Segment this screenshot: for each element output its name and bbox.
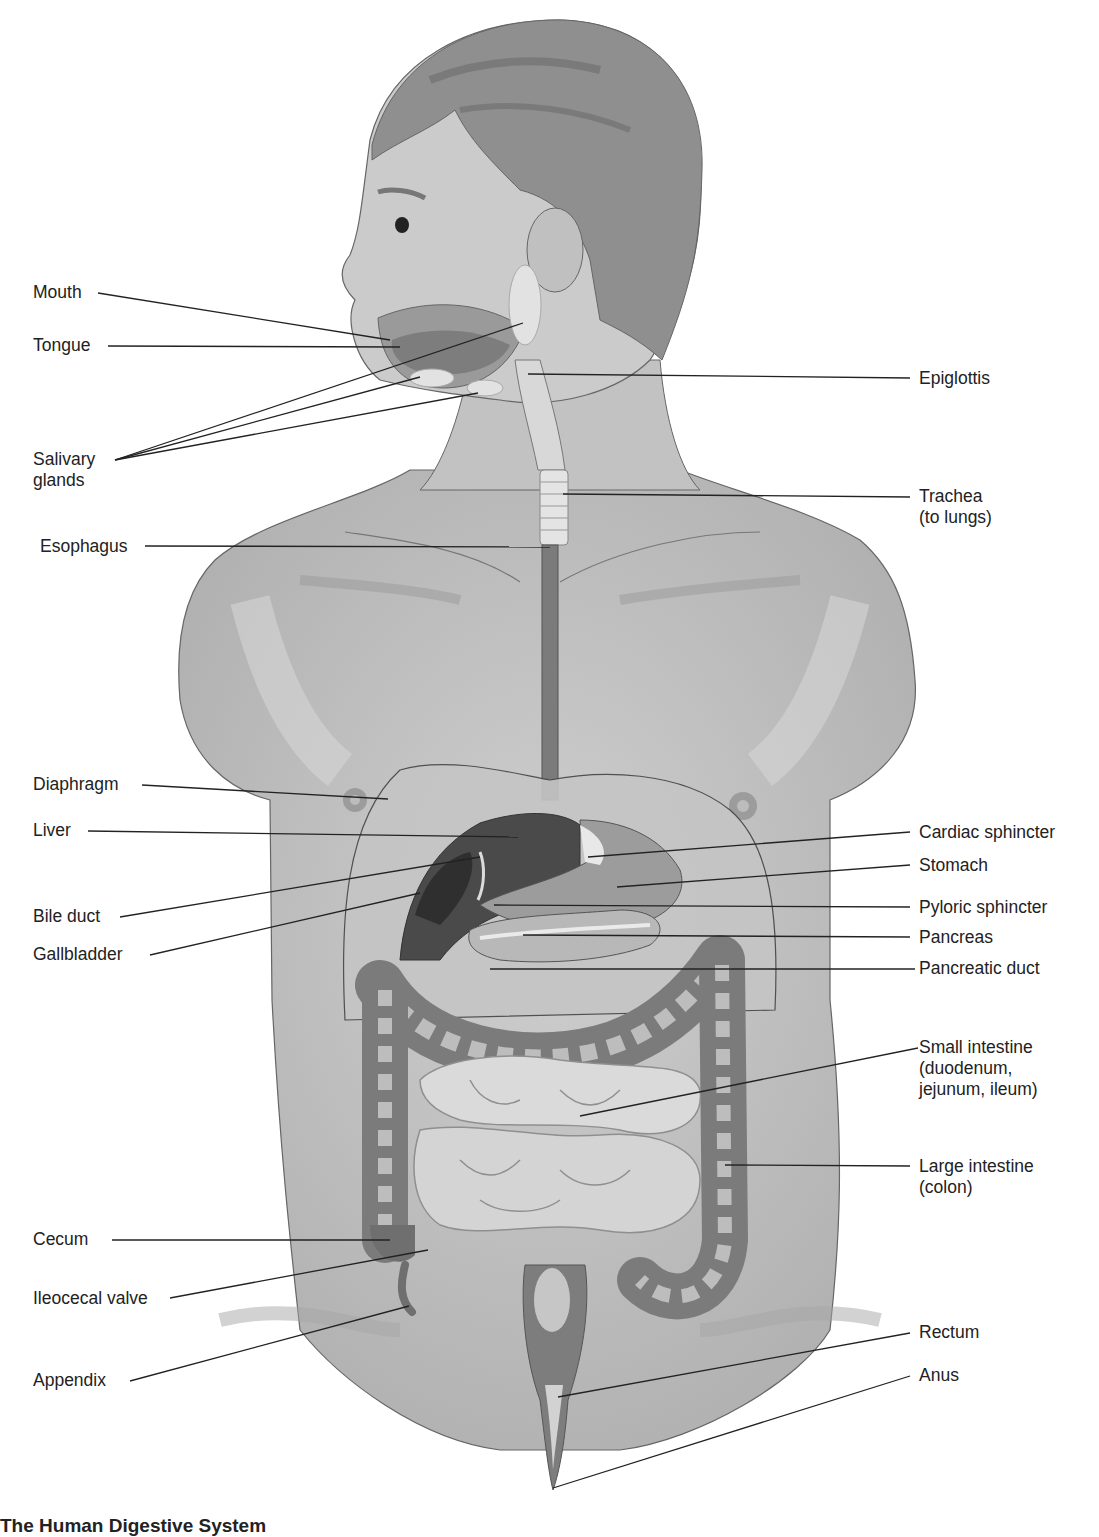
label-cardiac-sphincter: Cardiac sphincter bbox=[919, 822, 1055, 843]
figure-caption: The Human Digestive System bbox=[0, 1515, 266, 1537]
label-stomach: Stomach bbox=[919, 855, 988, 876]
label-epiglottis: Epiglottis bbox=[919, 368, 990, 389]
label-diaphragm: Diaphragm bbox=[33, 774, 119, 795]
label-rectum: Rectum bbox=[919, 1322, 979, 1343]
label-salivary-line2: glands bbox=[33, 470, 95, 491]
label-mouth: Mouth bbox=[33, 282, 82, 303]
label-small-intestine-line2: (duodenum, bbox=[919, 1058, 1038, 1079]
label-appendix: Appendix bbox=[33, 1370, 106, 1391]
label-esophagus: Esophagus bbox=[40, 536, 128, 557]
label-small-intestine: Small intestine (duodenum, jejunum, ileu… bbox=[919, 1037, 1038, 1100]
label-small-intestine-line1: Small intestine bbox=[919, 1037, 1038, 1058]
label-ileocecal-valve: Ileocecal valve bbox=[33, 1288, 148, 1309]
label-pyloric-sphincter: Pyloric sphincter bbox=[919, 897, 1047, 918]
label-large-intestine-line1: Large intestine bbox=[919, 1156, 1034, 1177]
label-pancreatic-duct: Pancreatic duct bbox=[919, 958, 1040, 979]
label-salivary-glands: Salivary glands bbox=[33, 449, 95, 491]
label-liver: Liver bbox=[33, 820, 71, 841]
label-cecum: Cecum bbox=[33, 1229, 88, 1250]
label-trachea: Trachea (to lungs) bbox=[919, 486, 992, 528]
label-small-intestine-line3: jejunum, ileum) bbox=[919, 1079, 1038, 1100]
label-salivary-line1: Salivary bbox=[33, 449, 95, 470]
label-trachea-line1: Trachea bbox=[919, 486, 992, 507]
eye-shape bbox=[395, 217, 409, 233]
label-large-intestine-line2: (colon) bbox=[919, 1177, 1034, 1198]
trachea-shape bbox=[540, 470, 568, 545]
label-gallbladder: Gallbladder bbox=[33, 944, 123, 965]
esophagus-shape bbox=[542, 545, 558, 800]
label-large-intestine: Large intestine (colon) bbox=[919, 1156, 1034, 1198]
label-tongue: Tongue bbox=[33, 335, 90, 356]
label-trachea-line2: (to lungs) bbox=[919, 507, 992, 528]
label-bile-duct: Bile duct bbox=[33, 906, 100, 927]
label-anus: Anus bbox=[919, 1365, 959, 1386]
label-pancreas: Pancreas bbox=[919, 927, 993, 948]
small-intestine-shape bbox=[414, 1056, 700, 1232]
